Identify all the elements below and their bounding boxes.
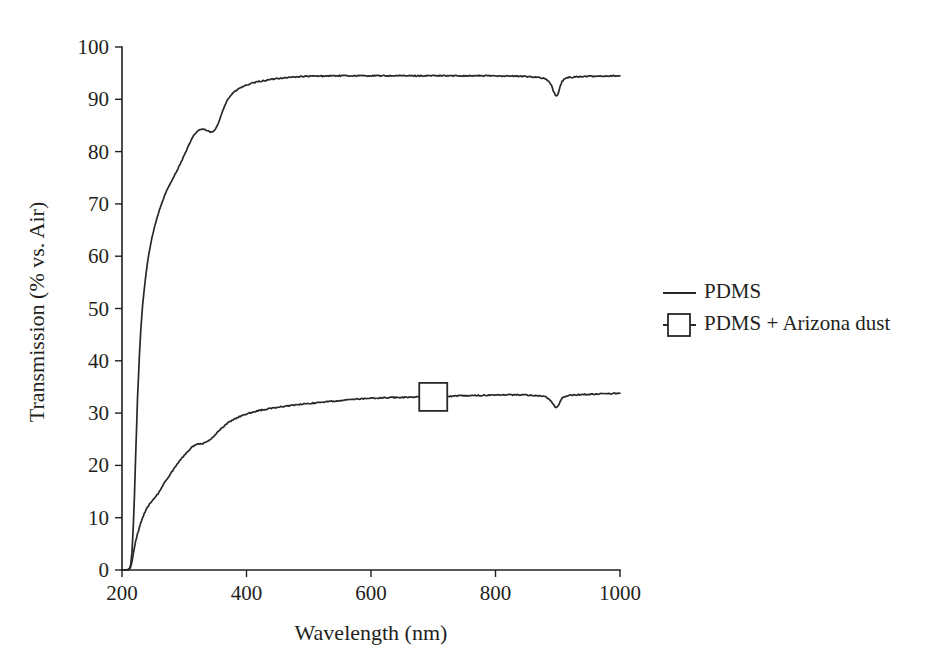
- x-tick-label: 200: [106, 581, 138, 605]
- axes: [122, 47, 620, 570]
- x-tick-label: 1000: [599, 581, 641, 605]
- legend-label-1: PDMS: [704, 279, 761, 303]
- chart-legend: PDMSPDMS + Arizona dust: [663, 279, 890, 336]
- legend-label-2: PDMS + Arizona dust: [704, 311, 890, 335]
- y-tick-label: 0: [99, 558, 110, 582]
- x-axis-label: Wavelength (nm): [295, 620, 448, 645]
- transmission-spectrum-chart: 0102030405060708090100 2004006008001000 …: [0, 0, 940, 666]
- x-tick-label: 600: [355, 581, 387, 605]
- chart-figure: 0102030405060708090100 2004006008001000 …: [0, 0, 940, 666]
- series-line-1: [122, 75, 620, 570]
- data-point-markers: [419, 383, 447, 411]
- data-series: [122, 75, 620, 570]
- y-tick-label: 40: [88, 349, 109, 373]
- plot-area: 0102030405060708090100 2004006008001000: [78, 35, 642, 605]
- y-tick-label: 90: [88, 87, 109, 111]
- y-tick-label: 70: [88, 192, 109, 216]
- legend-marker-square-2: [668, 314, 690, 336]
- x-tick-label: 400: [231, 581, 263, 605]
- y-tick-label: 100: [78, 35, 110, 59]
- x-axis-ticks: 2004006008001000: [106, 570, 641, 605]
- y-axis-ticks: 0102030405060708090100: [78, 35, 123, 582]
- y-axis-label: Transmission (% vs. Air): [24, 202, 49, 422]
- y-tick-label: 20: [88, 453, 109, 477]
- y-tick-label: 50: [88, 297, 109, 321]
- y-tick-label: 80: [88, 140, 109, 164]
- y-tick-label: 10: [88, 506, 109, 530]
- y-tick-label: 30: [88, 401, 109, 425]
- series-line-2: [122, 393, 620, 570]
- x-tick-label: 800: [480, 581, 512, 605]
- data-point-marker-square: [419, 383, 447, 411]
- y-tick-label: 60: [88, 244, 109, 268]
